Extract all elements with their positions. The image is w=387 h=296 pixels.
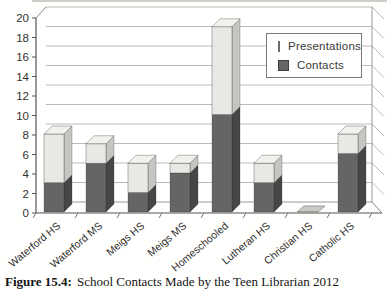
y-tick-label: 18 — [16, 32, 29, 44]
bar-catholic-hs-presentations-front — [338, 134, 358, 154]
gridline-side — [372, 27, 384, 39]
bar-meigs-hs-contacts-front — [128, 193, 148, 213]
x-tick — [285, 213, 288, 218]
gridline-side — [372, 7, 384, 19]
y-tick-label: 16 — [16, 51, 29, 63]
gridline-side — [372, 163, 384, 175]
gridline-side — [372, 105, 384, 117]
gridline-side — [372, 66, 384, 78]
bar-homeschooled-presentations-side — [232, 19, 240, 115]
y-tick-label: 14 — [16, 71, 29, 83]
figure-caption: Figure 15.4:School Contacts Made by the … — [5, 274, 385, 290]
figure-caption-label: Figure 15.4: — [5, 274, 72, 289]
x-tick — [117, 213, 120, 218]
bar-waterford-ms-presentations-front — [86, 144, 106, 164]
bar-waterford-hs-presentations-side — [64, 126, 72, 183]
chart-legend: Presentations Contacts — [266, 33, 362, 78]
bar-waterford-ms-contacts-front — [86, 163, 106, 212]
gridline-side — [372, 124, 384, 136]
legend-label: Presentations — [288, 40, 361, 52]
legend-item-contacts: Contacts — [278, 59, 361, 71]
legend-label: Contacts — [297, 59, 344, 71]
figure-caption-text: School Contacts Made by the Teen Librari… — [77, 274, 339, 289]
bar-waterford-hs-contacts-front — [44, 183, 64, 212]
bar-lutheran-hs-contacts-front — [254, 183, 274, 212]
x-tick — [369, 213, 372, 218]
bar-homeschooled-contacts-front — [212, 115, 232, 213]
x-tick — [201, 213, 204, 218]
bar-waterford-hs-presentations-front — [44, 134, 64, 183]
bar-homeschooled-presentations-front — [212, 27, 232, 115]
bar-christian-hs-front-edge — [297, 211, 318, 213]
x-tick — [75, 213, 78, 218]
figure-panel: 02468101214161820Waterford HSWaterford M… — [0, 0, 387, 296]
x-category-label: Catholic HS — [306, 219, 356, 264]
presentations-swatch-icon — [278, 41, 280, 52]
y-tick-label: 2 — [23, 188, 29, 200]
gridline-side — [372, 144, 384, 156]
gridline-side — [372, 183, 384, 195]
y-tick-label: 20 — [16, 12, 29, 24]
bar-waterford-ms-contacts-side — [106, 155, 114, 212]
x-tick — [243, 213, 246, 218]
bar-meigs-ms-contacts-front — [170, 173, 190, 212]
x-category-label: Meigs HS — [104, 219, 147, 257]
bar-meigs-hs-presentations-front — [128, 163, 148, 192]
y-tick-label: 6 — [23, 149, 29, 161]
legend-item-presentations: Presentations — [278, 40, 361, 52]
gridline-side — [372, 46, 384, 58]
contacts-swatch-icon — [278, 60, 289, 71]
x-tick — [327, 213, 330, 218]
y-tick-label: 8 — [23, 129, 29, 141]
x-tick — [33, 213, 36, 218]
bar-lutheran-hs-presentations-front — [254, 163, 274, 183]
bar-homeschooled-contacts-side — [232, 107, 240, 213]
y-tick-label: 0 — [23, 207, 29, 219]
y-tick-label: 10 — [16, 110, 29, 122]
gridline-side — [372, 85, 384, 97]
bar-catholic-hs-contacts-front — [338, 154, 358, 213]
y-tick-label: 4 — [23, 168, 30, 180]
bar-catholic-hs-contacts-side — [358, 146, 366, 213]
x-tick — [159, 213, 162, 218]
bar-meigs-ms-presentations-front — [170, 163, 190, 173]
y-tick-label: 12 — [16, 90, 29, 102]
y-axis-top-depth-edge — [36, 7, 46, 18]
